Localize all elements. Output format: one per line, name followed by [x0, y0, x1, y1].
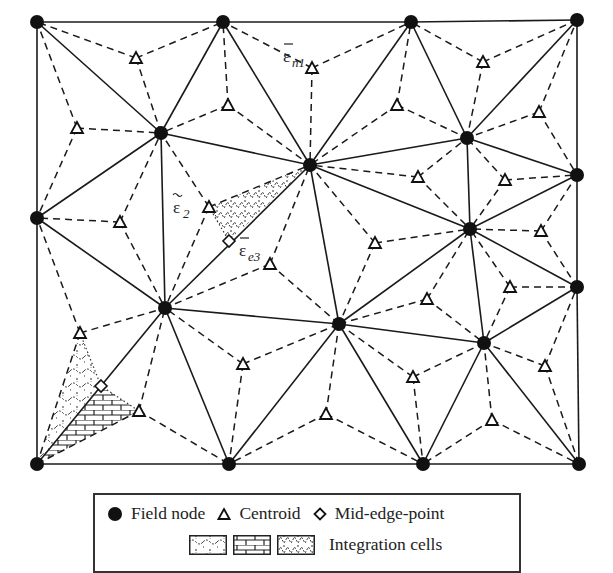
field-node-icon: [30, 211, 44, 225]
mesh-edge: [165, 308, 339, 324]
label-eps-e3: ε e3: [239, 238, 261, 264]
legend-mid-edge-label: Mid-edge-point: [335, 503, 445, 524]
centroid-spoke: [161, 105, 228, 133]
centroid-icon: [421, 293, 433, 304]
centroid-spoke: [339, 299, 427, 324]
mesh-edge: [37, 218, 165, 308]
centroid-spoke: [120, 222, 165, 308]
centroid-spoke: [418, 177, 470, 229]
centroid-spoke: [37, 218, 120, 222]
mesh-edge: [411, 20, 577, 22]
field-node-icon: [477, 336, 491, 350]
mesh-edge: [577, 287, 579, 464]
legend-row-integration-cells: Integration cells: [189, 534, 454, 555]
field-node-icon: [416, 457, 430, 471]
centroid-spoke: [37, 22, 77, 128]
centroid-spoke: [77, 128, 161, 133]
label-eps-2: ε 2: [173, 194, 190, 222]
mesh-edge: [229, 324, 339, 464]
centroid-spoke: [80, 308, 165, 333]
centroid-spoke: [243, 324, 339, 364]
field-node-icon: [303, 158, 317, 172]
centroid-spoke: [397, 105, 467, 138]
centroid-icon: [222, 99, 234, 110]
centroid-spoke: [312, 22, 411, 68]
centroid-icon: [217, 507, 231, 521]
mesh-edge: [165, 308, 229, 464]
legend: Field node Centroid Mid-edge-point Integ…: [93, 493, 521, 573]
centroid-icon: [477, 56, 489, 67]
centroid-spoke: [413, 343, 484, 377]
centroid-spoke: [539, 20, 577, 112]
centroid-spoke: [375, 229, 470, 243]
centroid-icon: [320, 408, 332, 419]
field-node-icon: [216, 15, 230, 29]
field-node-icon: [222, 457, 236, 471]
field-node-icon: [158, 301, 172, 315]
field-node-icon: [30, 15, 44, 29]
centroid-icon: [264, 258, 276, 269]
wavy-cell-swatch-icon: [189, 535, 227, 555]
centroid-icon: [237, 358, 249, 369]
svg-text:2: 2: [183, 206, 190, 221]
field-node-icon: [572, 457, 586, 471]
field-node-icon: [332, 317, 346, 331]
centroid-spoke: [467, 62, 483, 138]
centroid-icon: [486, 414, 498, 425]
field-node-icon: [404, 15, 418, 29]
centroid-icon: [539, 360, 551, 371]
centroid-spoke: [139, 411, 229, 464]
centroid-spoke: [411, 22, 483, 62]
mesh-edge: [423, 343, 484, 464]
zigzag-cell-swatch-icon: [277, 535, 315, 555]
centroid-spoke: [37, 22, 136, 58]
centroid-spoke: [539, 112, 577, 175]
mesh-edge: [467, 138, 470, 229]
centroid-spoke: [310, 105, 397, 165]
svg-text:n1: n1: [292, 55, 305, 70]
field-node-icon: [463, 222, 477, 236]
centroid-spoke: [397, 22, 411, 105]
mesh-edge: [470, 175, 577, 229]
centroid-icon: [391, 99, 403, 110]
mesh-edge: [37, 22, 161, 133]
centroid-spoke: [470, 180, 505, 229]
centroid-spoke: [310, 165, 375, 243]
centroid-spoke: [223, 22, 228, 105]
mesh-edge: [411, 22, 467, 138]
mesh-edge: [339, 229, 470, 324]
centroid-spoke: [470, 229, 541, 231]
centroid-icon: [533, 106, 545, 117]
mesh-edge: [467, 20, 577, 138]
centroid-icon: [130, 52, 142, 63]
mesh-edge: [165, 165, 310, 308]
legend-centroid-label: Centroid: [239, 503, 300, 524]
field-node-icon: [107, 506, 123, 522]
centroid-spoke: [541, 231, 577, 287]
centroid-spoke: [136, 22, 223, 58]
field-node-icon: [30, 457, 44, 471]
centroid-spoke: [161, 133, 209, 207]
svg-text:ε: ε: [173, 198, 180, 217]
field-node-icon: [570, 280, 584, 294]
field-node-icon: [570, 168, 584, 182]
centroid-spoke: [467, 112, 539, 138]
mesh-edge: [484, 287, 577, 343]
centroid-icon: [306, 62, 318, 73]
mid-edge-point-icon: [313, 507, 327, 521]
svg-text:e3: e3: [248, 249, 261, 264]
mesh-edge: [223, 22, 310, 165]
mesh-edge: [310, 165, 339, 324]
legend-row-markers: Field node Centroid Mid-edge-point: [107, 503, 456, 524]
svg-text:ε: ε: [283, 47, 290, 66]
centroid-spoke: [165, 264, 270, 308]
legend-integration-cells-label: Integration cells: [329, 534, 442, 555]
mesh-edge: [161, 133, 165, 308]
legend-field-node-label: Field node: [131, 503, 205, 524]
centroid-spoke: [229, 414, 326, 464]
centroid-spoke: [418, 138, 467, 177]
field-node-icon: [460, 131, 474, 145]
field-node-icon: [570, 13, 584, 27]
centroid-spoke: [505, 175, 577, 180]
